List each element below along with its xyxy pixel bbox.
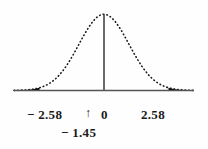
distribution-plot [0,0,208,100]
tick-label-center: 0 [101,107,108,123]
tick-label-right-critical: 2.58 [141,107,165,123]
axis-label-row: − 2.58 ↑ 0 2.58 − 1.45 [0,100,208,149]
normal-distribution-figure: − 2.58 ↑ 0 2.58 − 1.45 [0,0,208,149]
test-statistic-label: − 1.45 [61,125,96,141]
test-statistic-arrow-icon: ↑ [85,106,91,121]
tick-label-left-critical: − 2.58 [27,107,62,123]
